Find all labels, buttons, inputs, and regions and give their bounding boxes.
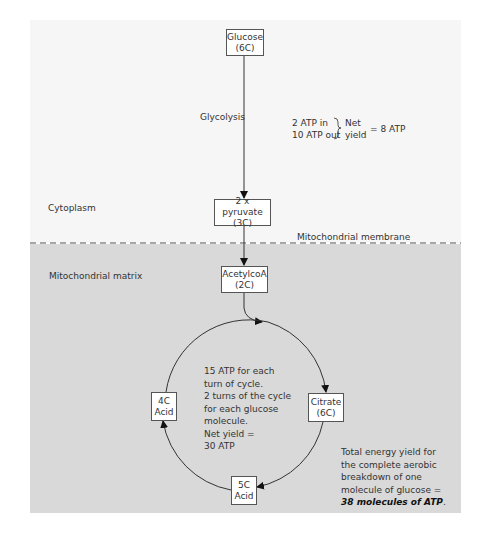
membrane-label: Mitochondrial membrane xyxy=(297,231,410,243)
acetylcoa-label: AcetylcoA xyxy=(222,269,267,280)
citrate-carbons: (6C) xyxy=(309,408,343,419)
total-yield-note: Total energy yield for the complete aero… xyxy=(341,446,446,509)
glucose-label: Glucose xyxy=(227,32,263,43)
atp-in-text: 2 ATP in xyxy=(292,117,340,129)
glucose-carbons: (6C) xyxy=(227,43,263,54)
pyruvate-label: 2 x pyruvate xyxy=(215,196,270,218)
acid-5c-node: 5C Acid xyxy=(231,476,257,505)
total-atp-emphasis: 38 molecules of ATP xyxy=(341,497,443,507)
acetylcoa-node: AcetylcoA (2C) xyxy=(221,266,268,293)
citrate-node: Citrate (6C) xyxy=(308,393,344,422)
krebs-cycle-note: 15 ATP for each turn of cycle. 2 turns o… xyxy=(204,365,291,453)
matrix-label: Mitochondrial matrix xyxy=(49,270,142,282)
cytoplasm-label: Cytoplasm xyxy=(48,202,96,214)
glucose-node: Glucose (6C) xyxy=(226,29,264,56)
glycolysis-label: Glycolysis xyxy=(200,111,245,123)
net-yield-label: Net yield xyxy=(345,117,367,141)
entry-arrow xyxy=(244,293,262,322)
atp-out-text: 10 ATP out xyxy=(292,129,340,141)
acid-4c-node: 4C Acid xyxy=(151,392,177,421)
atp-in-out: 2 ATP in 10 ATP out xyxy=(292,117,340,141)
pyruvate-node: 2 x pyruvate (3C) xyxy=(214,199,271,226)
net-yield-value: = 8 ATP xyxy=(370,123,405,135)
citrate-label: Citrate xyxy=(309,397,343,408)
pyruvate-carbons: (3C) xyxy=(215,218,270,229)
acetylcoa-carbons: (2C) xyxy=(222,280,267,291)
